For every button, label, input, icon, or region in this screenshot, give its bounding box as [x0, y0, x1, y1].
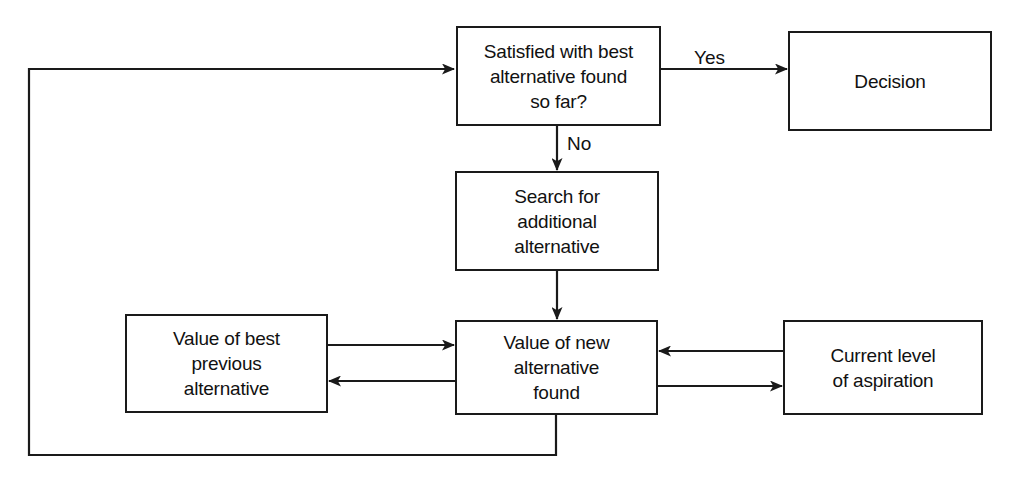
node-value-best-previous-label: Value of best previous alternative	[173, 326, 280, 401]
node-search[interactable]: Search for additional alternative	[455, 171, 659, 271]
node-value-new-label: Value of new alternative found	[503, 330, 609, 405]
node-value-new[interactable]: Value of new alternative found	[455, 320, 658, 415]
node-current-aspiration-label: Current level of aspiration	[830, 343, 935, 393]
edge-label-yes: Yes	[694, 47, 725, 69]
node-satisfied[interactable]: Satisfied with best alternative found so…	[456, 26, 661, 126]
node-search-label: Search for additional alternative	[514, 184, 600, 259]
node-value-best-previous[interactable]: Value of best previous alternative	[125, 314, 328, 413]
flowchart-canvas: Satisfied with best alternative found so…	[0, 0, 1011, 482]
node-decision-label: Decision	[854, 69, 925, 94]
node-current-aspiration[interactable]: Current level of aspiration	[783, 320, 983, 415]
edge-label-no: No	[567, 133, 591, 155]
node-decision[interactable]: Decision	[788, 31, 992, 131]
node-satisfied-label: Satisfied with best alternative found so…	[484, 39, 633, 114]
